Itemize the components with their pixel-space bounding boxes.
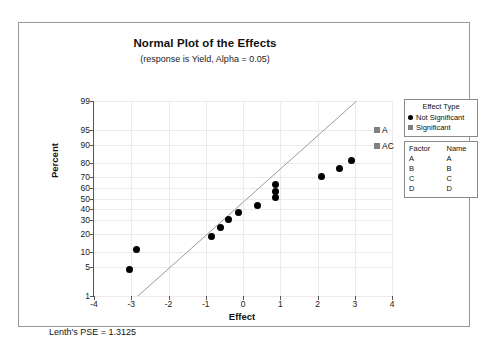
name-cell: A — [435, 154, 473, 164]
y-axis-tick — [90, 130, 94, 131]
y-axis-tick-label: 80 — [56, 159, 90, 167]
factor-cell: C — [409, 174, 435, 184]
circle-marker-icon — [408, 115, 413, 120]
table-row: CC — [409, 174, 473, 184]
data-point — [217, 224, 224, 231]
name-cell: D — [435, 184, 473, 194]
y-axis-tick-label: 30 — [56, 216, 90, 224]
name-cell: C — [435, 174, 473, 184]
legend-factor-table: Factor Name AABBCCDD — [404, 141, 478, 198]
x-axis-tick-label: 4 — [380, 300, 404, 309]
factor-cell: B — [409, 164, 435, 174]
legend-effect-type: Effect Type Not Significant Significant — [404, 99, 478, 137]
factor-rows: AABBCCDD — [409, 154, 473, 194]
data-point — [272, 181, 279, 188]
plot-area: ACA 151020304050607080909599-4-3-2-10123… — [93, 101, 392, 297]
y-axis-tick — [90, 188, 94, 189]
y-axis-tick — [90, 267, 94, 268]
factor-cell: A — [409, 154, 435, 164]
plot-inner: ACA — [94, 101, 392, 296]
y-axis-tick-label: 95 — [56, 126, 90, 134]
y-axis-tick-label: 50 — [56, 195, 90, 203]
x-axis-tick-label: -2 — [157, 300, 181, 309]
data-point — [374, 127, 380, 133]
legend-item-label: Not Significant — [416, 113, 464, 122]
factor-name-table: Factor Name AABBCCDD — [409, 144, 473, 194]
gridline-vertical — [392, 101, 393, 296]
x-axis-tick-label: 1 — [268, 300, 292, 309]
x-axis-tick-label: 3 — [343, 300, 367, 309]
table-row: DD — [409, 184, 473, 194]
y-axis-tick — [90, 234, 94, 235]
data-point — [208, 233, 215, 240]
data-point — [272, 188, 279, 195]
y-axis-tick-label: 40 — [56, 205, 90, 213]
data-point-label: AC — [382, 141, 394, 151]
y-axis-tick — [90, 163, 94, 164]
legend-item-significant: Significant — [408, 123, 474, 132]
data-point — [126, 266, 133, 273]
table-row: AA — [409, 154, 473, 164]
y-axis-tick — [90, 145, 94, 146]
table-row: BB — [409, 164, 473, 174]
y-axis-tick-label: 60 — [56, 184, 90, 192]
chart-subtitle: (response is Yield, Alpha = 0.05) — [19, 54, 391, 64]
y-axis-tick-label: 20 — [56, 230, 90, 238]
data-point — [374, 143, 380, 149]
reference-line — [94, 101, 392, 296]
data-point — [348, 157, 355, 164]
data-point-label: A — [382, 125, 388, 135]
x-axis-title: Effect — [93, 311, 391, 322]
y-axis-tick-label: 99 — [56, 97, 90, 105]
y-axis-tick-label: 1 — [56, 292, 90, 300]
legend-effect-type-title: Effect Type — [408, 102, 474, 111]
x-axis-tick-label: -3 — [119, 300, 143, 309]
lenths-pse-note: Lenth's PSE = 1.3125 — [49, 327, 136, 337]
chart-outer-frame: Normal Plot of the Effects (response is … — [18, 22, 470, 327]
y-axis-tick-label: 90 — [56, 141, 90, 149]
data-point — [318, 173, 325, 180]
legend-item-not-significant: Not Significant — [408, 113, 474, 122]
y-axis-tick — [90, 252, 94, 253]
y-axis-tick — [90, 199, 94, 200]
x-axis-tick-label: -1 — [194, 300, 218, 309]
chart-title: Normal Plot of the Effects — [19, 37, 391, 49]
data-point — [235, 209, 242, 216]
y-axis-tick — [90, 209, 94, 210]
y-axis-tick-label: 5 — [56, 263, 90, 271]
y-axis-tick — [90, 101, 94, 102]
name-cell: B — [435, 164, 473, 174]
legend-item-label: Significant — [416, 123, 451, 132]
y-axis-tick-label: 10 — [56, 248, 90, 256]
column-header-name: Name — [435, 144, 473, 154]
factor-cell: D — [409, 184, 435, 194]
y-axis-tick — [90, 177, 94, 178]
column-header-factor: Factor — [409, 144, 435, 154]
y-axis-tick — [90, 220, 94, 221]
table-header-row: Factor Name — [409, 144, 473, 154]
x-axis-tick-label: -4 — [82, 300, 106, 309]
x-axis-tick-label: 2 — [306, 300, 330, 309]
square-marker-icon — [408, 125, 413, 130]
y-axis-tick-label: 70 — [56, 173, 90, 181]
x-axis-tick-label: 0 — [231, 300, 255, 309]
